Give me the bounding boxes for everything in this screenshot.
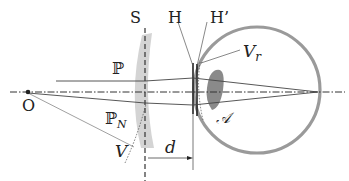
point-O [26, 90, 31, 95]
label-A: 𝒜 [216, 109, 235, 127]
label-V: V [115, 141, 129, 161]
optics-diagram: S H H’ Vr ℙ ℙN O V d 𝒜 [0, 0, 349, 181]
label-P: ℙ [112, 59, 124, 78]
ray-P [56, 78, 318, 92]
spectacle-lens [135, 33, 154, 148]
label-O: O [22, 96, 35, 115]
label-P-N: ℙN [105, 109, 127, 131]
label-H-prime: H’ [210, 8, 229, 27]
crystalline-lens [207, 70, 224, 110]
label-H: H [168, 8, 182, 27]
ray-P-N [28, 92, 318, 105]
label-S: S [130, 8, 141, 27]
leader-H [178, 22, 193, 66]
label-V-r: Vr [243, 41, 262, 64]
label-d: d [165, 137, 176, 157]
arrowhead-icon [187, 156, 193, 160]
